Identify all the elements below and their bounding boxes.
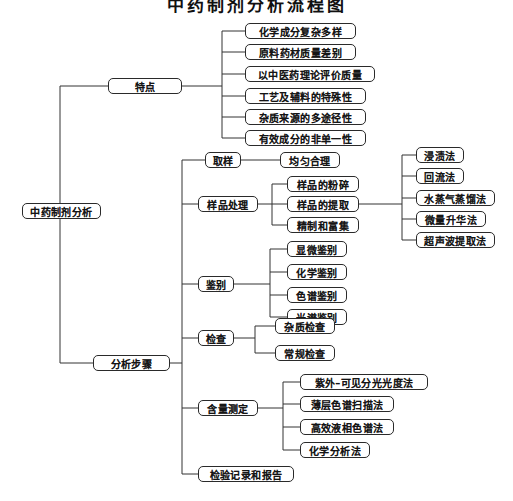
- step-node-sampling[interactable]: 取样: [205, 152, 241, 168]
- feature-label: 杂质来源的多途径性: [259, 110, 353, 125]
- inspection-child-label: 常规检查: [284, 346, 326, 361]
- assay-child-label: 薄层色谱扫描法: [311, 397, 384, 412]
- feature-label: 有效成分的非单一性: [259, 131, 353, 146]
- step-node-identification[interactable]: 鉴别: [198, 276, 234, 292]
- extraction-method-label: 微量升华法: [425, 212, 477, 227]
- feature-node[interactable]: 化学成分复杂多样: [245, 23, 356, 39]
- extraction-method-label: 浸渍法: [424, 148, 455, 163]
- branch-node-characteristics[interactable]: 特点: [108, 78, 182, 94]
- identification-child-label: 化学鉴别: [296, 265, 338, 280]
- feature-label: 原料药材质量差别: [259, 45, 342, 60]
- feature-node[interactable]: 原料药材质量差别: [245, 44, 356, 60]
- treatment-child-node-extraction[interactable]: 样品的提取: [287, 196, 359, 212]
- page-title: 中药制剂分析流程图: [0, 0, 513, 16]
- extraction-method-label: 超声波提取法: [424, 233, 486, 248]
- identification-child-label: 色谱鉴别: [296, 288, 338, 303]
- feature-node[interactable]: 有效成分的非单一性: [245, 130, 366, 146]
- assay-child-label: 高效液相色谱法: [311, 420, 384, 435]
- assay-child-node[interactable]: 高效液相色谱法: [300, 419, 394, 435]
- inspection-child-node[interactable]: 常规检查: [275, 345, 335, 361]
- step-label: 检查: [206, 331, 227, 346]
- step-node-assay[interactable]: 含量测定: [198, 400, 258, 416]
- feature-label: 化学成分复杂多样: [259, 24, 342, 39]
- extraction-method-node[interactable]: 水蒸气蒸馏法: [416, 190, 495, 206]
- step-node-records-report[interactable]: 检验记录和报告: [198, 466, 294, 482]
- branch-node-analysis-steps[interactable]: 分析步骤: [93, 355, 170, 371]
- inspection-child-node[interactable]: 杂质检查: [275, 318, 335, 334]
- treatment-child-label: 精制和富集: [297, 218, 349, 233]
- treatment-child-label: 样品的粉碎: [297, 177, 349, 192]
- step-label: 检验记录和报告: [210, 467, 283, 482]
- identification-child-node[interactable]: 色谱鉴别: [287, 287, 347, 303]
- branch-label: 分析步骤: [111, 356, 153, 371]
- branch-label: 特点: [135, 79, 156, 94]
- mindmap-canvas: 中药制剂分析流程图: [0, 0, 513, 501]
- extraction-method-node[interactable]: 超声波提取法: [416, 232, 495, 248]
- identification-child-node[interactable]: 显微鉴别: [287, 241, 347, 257]
- treatment-child-node[interactable]: 样品的粉碎: [287, 176, 359, 192]
- assay-child-label: 化学分析法: [309, 443, 361, 458]
- step-label: 鉴别: [206, 277, 227, 292]
- assay-child-node[interactable]: 化学分析法: [300, 442, 370, 458]
- root-node-label: 中药制剂分析: [30, 204, 92, 219]
- step-label: 取样: [213, 153, 234, 168]
- feature-label: 以中医药理论评价质量: [258, 67, 362, 82]
- extraction-method-label: 回流法: [424, 169, 455, 184]
- treatment-child-node[interactable]: 精制和富集: [287, 217, 359, 233]
- treatment-child-label: 样品的提取: [297, 197, 349, 212]
- identification-child-node[interactable]: 化学鉴别: [287, 264, 347, 280]
- extraction-method-node[interactable]: 浸渍法: [416, 147, 464, 163]
- assay-child-label: 紫外–可见分光光度法: [315, 375, 414, 390]
- step-node-inspection[interactable]: 检查: [198, 330, 234, 346]
- extraction-method-node[interactable]: 微量升华法: [416, 211, 486, 227]
- identification-child-label: 显微鉴别: [296, 242, 338, 257]
- root-node[interactable]: 中药制剂分析: [22, 203, 101, 219]
- feature-label: 工艺及辅料的特殊性: [259, 89, 353, 104]
- feature-node[interactable]: 杂质来源的多途径性: [245, 109, 366, 125]
- extraction-method-label: 水蒸气蒸馏法: [424, 191, 486, 206]
- feature-node[interactable]: 以中医药理论评价质量: [245, 66, 375, 82]
- sampling-child-label: 均匀合理: [289, 153, 331, 168]
- step-node-sample-treatment[interactable]: 样品处理: [198, 196, 258, 212]
- assay-child-node[interactable]: 薄层色谱扫描法: [300, 396, 394, 412]
- step-label: 样品处理: [207, 197, 249, 212]
- feature-node[interactable]: 工艺及辅料的特殊性: [245, 88, 366, 104]
- extraction-method-node[interactable]: 回流法: [416, 168, 464, 184]
- assay-child-node[interactable]: 紫外–可见分光光度法: [300, 374, 428, 390]
- sampling-child-node[interactable]: 均匀合理: [280, 152, 340, 168]
- inspection-child-label: 杂质检查: [284, 319, 326, 334]
- step-label: 含量测定: [207, 401, 249, 416]
